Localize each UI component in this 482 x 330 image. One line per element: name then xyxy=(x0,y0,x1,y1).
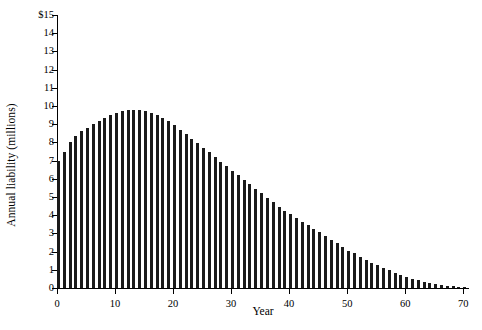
y-tick-label: 9 xyxy=(49,117,54,130)
bar xyxy=(74,136,77,288)
bar xyxy=(190,139,193,288)
y-tick-label: 1 xyxy=(49,263,54,276)
bar xyxy=(312,229,315,288)
bar xyxy=(307,225,310,288)
bar xyxy=(150,113,153,288)
y-axis-title: Annual liability (millions) xyxy=(0,0,22,330)
y-tick-label: 6 xyxy=(49,172,54,185)
bar xyxy=(144,111,147,288)
bar xyxy=(446,286,449,288)
x-tick-mark xyxy=(57,289,58,294)
bar xyxy=(295,218,298,288)
bar xyxy=(109,115,112,288)
bar xyxy=(231,171,234,288)
bar xyxy=(179,130,182,288)
bar xyxy=(237,175,240,288)
bar xyxy=(278,207,281,288)
bar xyxy=(318,232,321,288)
x-tick-mark xyxy=(289,289,290,294)
bar xyxy=(440,285,443,288)
y-tick-label: 3 xyxy=(49,226,54,239)
y-tick-label: 13 xyxy=(44,44,55,57)
bar xyxy=(452,286,455,288)
x-tick-mark xyxy=(173,289,174,294)
bar xyxy=(127,110,130,288)
y-tick-label: 14 xyxy=(44,26,55,39)
y-tick-label: 10 xyxy=(44,99,55,112)
y-tick-label: 12 xyxy=(44,63,55,76)
bar xyxy=(86,128,89,288)
x-tick-mark xyxy=(231,289,232,294)
bar xyxy=(382,268,385,288)
bar xyxy=(243,180,246,288)
bar xyxy=(417,280,420,288)
bar xyxy=(370,263,373,288)
bar xyxy=(202,148,205,288)
bar-series xyxy=(57,10,472,289)
bar xyxy=(103,118,106,288)
y-tick-label: 2 xyxy=(49,245,54,258)
bar xyxy=(341,247,344,288)
bar xyxy=(463,287,466,288)
bar xyxy=(283,211,286,288)
bar xyxy=(248,184,251,288)
bar xyxy=(225,166,228,288)
bar xyxy=(336,243,339,288)
x-tick-mark xyxy=(405,289,406,294)
bar xyxy=(330,240,333,288)
bar xyxy=(69,142,72,288)
bar xyxy=(324,236,327,288)
bar xyxy=(132,110,135,288)
bar xyxy=(254,189,257,288)
bar xyxy=(434,284,437,288)
bar xyxy=(394,273,397,288)
y-tick-label: 7 xyxy=(49,154,54,167)
y-tick-label: $15 xyxy=(38,8,54,21)
bar xyxy=(214,157,217,288)
bar xyxy=(399,275,402,288)
bar xyxy=(57,161,60,288)
y-tick-label: 5 xyxy=(49,190,54,203)
bar xyxy=(92,124,95,288)
bar xyxy=(353,253,356,288)
bar xyxy=(272,202,275,288)
bar xyxy=(167,121,170,288)
plot-area: $1514131211109876543210 010203040506070 xyxy=(57,10,472,289)
bar xyxy=(301,222,304,288)
bar xyxy=(80,131,83,288)
x-axis-title: Year xyxy=(57,305,469,317)
bar xyxy=(219,162,222,288)
bar xyxy=(359,257,362,288)
bar xyxy=(388,270,391,288)
bar xyxy=(156,115,159,288)
bar xyxy=(347,251,350,288)
y-tick-label: 4 xyxy=(49,208,54,221)
bar xyxy=(138,110,141,288)
bar xyxy=(121,111,124,288)
bar xyxy=(98,121,101,288)
bar xyxy=(63,152,66,289)
y-tick-label: 11 xyxy=(44,81,54,94)
bar xyxy=(161,118,164,288)
chart-figure: Annual liability (millions) $15141312111… xyxy=(0,0,482,330)
x-tick-mark xyxy=(115,289,116,294)
bar xyxy=(173,125,176,288)
y-tick-label: 0 xyxy=(49,281,54,294)
bar xyxy=(376,265,379,288)
bar xyxy=(457,287,460,288)
x-tick-mark xyxy=(463,289,464,294)
y-tick-label: 8 xyxy=(49,135,54,148)
bar xyxy=(196,143,199,288)
bar xyxy=(405,277,408,288)
x-tick-mark xyxy=(347,289,348,294)
bar xyxy=(411,279,414,288)
bar xyxy=(185,134,188,288)
bar xyxy=(115,113,118,288)
bar xyxy=(423,282,426,288)
bar xyxy=(289,214,292,288)
bar xyxy=(260,193,263,288)
bar xyxy=(428,283,431,288)
bar xyxy=(365,260,368,288)
bar xyxy=(208,152,211,288)
bar xyxy=(266,198,269,288)
